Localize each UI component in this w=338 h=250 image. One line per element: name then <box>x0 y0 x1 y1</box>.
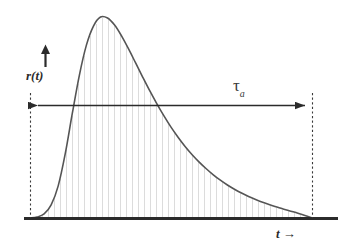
interval-duration-label: τa <box>233 76 245 97</box>
impulse-response-plot <box>0 0 338 250</box>
curve-hatch-fill <box>43 18 307 218</box>
figure-canvas: r(t) τa t→ <box>0 0 338 250</box>
right-arrow-icon: → <box>283 226 296 241</box>
tau-symbol: τ <box>233 76 240 95</box>
x-axis-variable: t <box>276 226 280 241</box>
up-arrow-icon <box>41 45 50 68</box>
tau-subscript: a <box>240 88 245 99</box>
y-axis-label: r(t) <box>26 68 43 84</box>
x-axis-label: t→ <box>276 226 296 242</box>
